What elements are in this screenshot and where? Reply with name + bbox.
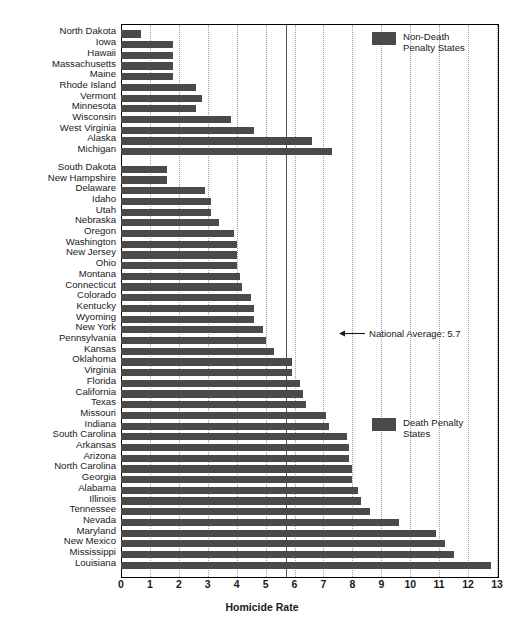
bar-label-connecticut: Connecticut xyxy=(0,280,116,290)
bar-maryland xyxy=(121,530,436,537)
bar-label-michigan: Michigan xyxy=(0,144,116,154)
bar-pennsylvania xyxy=(121,337,266,344)
bar-label-utah: Utah xyxy=(0,205,116,215)
bar-alaska xyxy=(121,137,312,144)
bar-south-carolina xyxy=(121,433,347,440)
legend-non-death-penalty: Non-Death Penalty States xyxy=(372,31,465,54)
bar-nebraska xyxy=(121,219,219,226)
x-tick-0: 0 xyxy=(106,578,136,590)
bar-label-iowa: Iowa xyxy=(0,37,116,47)
x-tick-8: 8 xyxy=(337,578,367,590)
bar-west-virginia xyxy=(121,127,254,134)
bar-arkansas xyxy=(121,444,349,451)
legend-death-penalty: Death Penalty States xyxy=(372,417,463,440)
bar-delaware xyxy=(121,187,205,194)
bar-label-massachusetts: Massachusetts xyxy=(0,59,116,69)
bar-kentucky xyxy=(121,305,254,312)
bar-georgia xyxy=(121,476,352,483)
bar-label-wisconsin: Wisconsin xyxy=(0,112,116,122)
bar-label-pennsylvania: Pennsylvania xyxy=(0,333,116,343)
left-arrow-icon xyxy=(339,329,365,338)
x-tick-7: 7 xyxy=(308,578,338,590)
x-tick-3: 3 xyxy=(193,578,223,590)
bar-label-alabama: Alabama xyxy=(0,483,116,493)
bar-wyoming xyxy=(121,316,254,323)
bar-label-minnesota: Minnesota xyxy=(0,101,116,111)
bar-texas xyxy=(121,401,306,408)
bar-label-alaska: Alaska xyxy=(0,133,116,143)
bar-label-louisiana: Louisiana xyxy=(0,558,116,568)
bar-label-nevada: Nevada xyxy=(0,515,116,525)
bar-label-kentucky: Kentucky xyxy=(0,301,116,311)
bar-florida xyxy=(121,380,300,387)
bar-maine xyxy=(121,73,173,80)
bar-label-florida: Florida xyxy=(0,376,116,386)
bar-massachusetts xyxy=(121,62,173,69)
x-tick-11: 11 xyxy=(424,578,454,590)
bar-alabama xyxy=(121,487,358,494)
bar-label-mississippi: Mississippi xyxy=(0,547,116,557)
bar-label-south-carolina: South Carolina xyxy=(0,429,116,439)
bar-california xyxy=(121,390,303,397)
bar-kansas xyxy=(121,348,274,355)
x-tick-12: 12 xyxy=(453,578,483,590)
homicide-rate-bar-chart: North DakotaIowaHawaiiMassachusettsMaine… xyxy=(0,0,524,629)
bar-idaho xyxy=(121,198,211,205)
bar-label-wyoming: Wyoming xyxy=(0,312,116,322)
bar-label-oklahoma: Oklahoma xyxy=(0,354,116,364)
bar-label-hawaii: Hawaii xyxy=(0,48,116,58)
bar-ohio xyxy=(121,262,237,269)
x-tick-13: 13 xyxy=(482,578,512,590)
national-average-label: National Average: 5.7 xyxy=(369,328,461,339)
bar-virginia xyxy=(121,369,292,376)
bar-vermont xyxy=(121,95,202,102)
bar-north-carolina xyxy=(121,465,352,472)
bar-label-west-virginia: West Virginia xyxy=(0,123,116,133)
bar-oregon xyxy=(121,230,234,237)
bar-arizona xyxy=(121,455,349,462)
bar-label-texas: Texas xyxy=(0,397,116,407)
x-axis-title: Homicide Rate xyxy=(0,601,524,613)
bar-label-nebraska: Nebraska xyxy=(0,215,116,225)
x-tick-6: 6 xyxy=(280,578,310,590)
bar-label-new-york: New York xyxy=(0,322,116,332)
bar-label-ohio: Ohio xyxy=(0,258,116,268)
x-tick-4: 4 xyxy=(222,578,252,590)
bar-wisconsin xyxy=(121,116,231,123)
bar-label-washington: Washington xyxy=(0,237,116,247)
x-tick-10: 10 xyxy=(395,578,425,590)
legend-swatch-non-death-penalty xyxy=(372,32,396,45)
bar-label-new-jersey: New Jersey xyxy=(0,247,116,257)
legend-label-non-death-penalty: Non-Death Penalty States xyxy=(403,31,465,54)
bar-new-york xyxy=(121,326,263,333)
bar-tennessee xyxy=(121,508,370,515)
bar-label-idaho: Idaho xyxy=(0,194,116,204)
bar-label-georgia: Georgia xyxy=(0,472,116,482)
bar-oklahoma xyxy=(121,358,292,365)
national-average-annotation: National Average: 5.7 xyxy=(339,328,461,339)
x-tick-2: 2 xyxy=(164,578,194,590)
bar-montana xyxy=(121,273,240,280)
bar-indiana xyxy=(121,423,329,430)
bar-label-kansas: Kansas xyxy=(0,344,116,354)
bar-washington xyxy=(121,241,237,248)
bar-new-mexico xyxy=(121,540,445,547)
x-axis-ticks: 012345678910111213 xyxy=(0,578,524,598)
bar-label-arizona: Arizona xyxy=(0,451,116,461)
x-tick-5: 5 xyxy=(251,578,281,590)
bar-label-indiana: Indiana xyxy=(0,419,116,429)
bar-label-california: California xyxy=(0,387,116,397)
bar-label-south-dakota: South Dakota xyxy=(0,162,116,172)
bar-label-delaware: Delaware xyxy=(0,183,116,193)
x-tick-1: 1 xyxy=(135,578,165,590)
bar-label-montana: Montana xyxy=(0,269,116,279)
bar-label-illinois: Illinois xyxy=(0,494,116,504)
bar-connecticut xyxy=(121,283,242,290)
bar-rows: North DakotaIowaHawaiiMassachusettsMaine… xyxy=(0,24,524,576)
bar-label-new-mexico: New Mexico xyxy=(0,536,116,546)
bar-illinois xyxy=(121,497,361,504)
bar-label-north-dakota: North Dakota xyxy=(0,26,116,36)
bar-iowa xyxy=(121,41,173,48)
bar-colorado xyxy=(121,294,251,301)
bar-south-dakota xyxy=(121,166,167,173)
